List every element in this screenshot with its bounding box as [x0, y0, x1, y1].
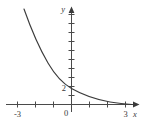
coordinate-plot: -3 3 0 2 y x: [0, 0, 141, 123]
y-tick-label-2: 2: [62, 83, 66, 93]
x-axis-arrow-icon: [133, 102, 140, 108]
y-axis-arrow-icon: [69, 7, 75, 14]
exponential-decay-curve: [24, 9, 132, 105]
x-tick-label-neg3: -3: [14, 109, 21, 119]
x-tick-label-3: 3: [123, 109, 127, 119]
y-axis-label: y: [60, 4, 65, 14]
origin-label: 0: [64, 108, 68, 118]
x-axis-label: x: [132, 109, 137, 119]
graph-figure: -3 3 0 2 y x: [0, 0, 141, 123]
